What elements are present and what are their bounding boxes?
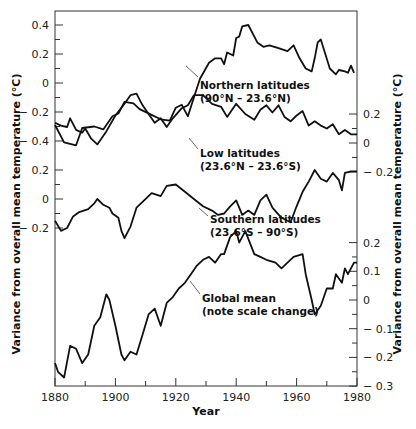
y-tick-label: − 0.3	[363, 380, 393, 393]
y-tick-label: 0.2	[363, 108, 381, 121]
y-tick-label: 0.4	[32, 19, 50, 32]
y-tick-label: 0	[363, 294, 370, 307]
tick-labels: 1880190019201940196019800.40.20− 0.2− 0.…	[19, 19, 393, 404]
global-mean-label-range: (note scale change)	[202, 305, 319, 317]
southern-latitudes-label: Southern latitudes	[210, 213, 321, 225]
y-tick-label: 0.2	[32, 164, 50, 177]
left-y-axis-title: Variance from overall mean temperature (…	[10, 74, 23, 355]
x-tick-label: 1880	[41, 391, 69, 404]
temperature-variance-chart: 1880190019201940196019800.40.20− 0.2− 0.…	[0, 0, 416, 429]
low-latitudes-label: Low latitudes	[200, 147, 280, 159]
y-tick-label: − 0.1	[363, 323, 393, 336]
curve-annotations: Northern latitudes(90°N – 23.6°N)Low lat…	[186, 66, 321, 317]
leader-line	[199, 208, 208, 216]
y-tick-label: − 0.2	[363, 351, 393, 364]
y-tick-label: − 0.4	[19, 135, 49, 148]
y-tick-label: 0.2	[32, 48, 50, 61]
low-latitudes-label-range: (23.6°N – 23.6°S)	[200, 160, 301, 172]
leader-line	[189, 138, 198, 149]
leader-line	[186, 66, 198, 77]
x-tick-label: 1900	[101, 391, 129, 404]
y-tick-label: 0.2	[363, 237, 381, 250]
x-axis-title: Year	[191, 405, 220, 418]
right-y-axis-title: Variance from overall mean temperature (…	[391, 74, 404, 355]
x-tick-label: 1960	[283, 391, 311, 404]
y-tick-label: 0.1	[363, 265, 381, 278]
southern-latitudes-curve	[55, 170, 357, 238]
y-tick-label: − 0.2	[19, 106, 49, 119]
southern-latitudes-label-range: (23.6°S – 90°S)	[210, 226, 298, 238]
northern-latitudes-label: Northern latitudes	[200, 79, 310, 91]
y-tick-label: 0	[363, 137, 370, 150]
northern-latitudes-label-range: (90°N – 23.6°N)	[200, 92, 291, 104]
leader-line	[190, 281, 200, 294]
x-tick-label: 1940	[222, 391, 250, 404]
y-tick-label: − 0.2	[363, 166, 393, 179]
y-tick-label: 0	[42, 77, 49, 90]
y-tick-label: − 0.2	[19, 222, 49, 235]
global-mean-label: Global mean	[202, 292, 276, 304]
data-curves	[55, 25, 357, 378]
y-tick-label: 0	[42, 193, 49, 206]
x-tick-label: 1920	[162, 391, 190, 404]
